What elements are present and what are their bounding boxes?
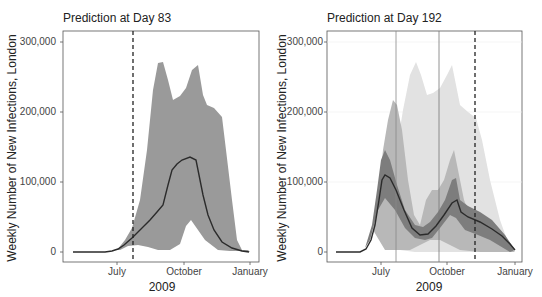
chart-graphics xyxy=(0,0,542,297)
right-plot-area xyxy=(324,31,522,265)
left-plot-area xyxy=(60,31,259,265)
